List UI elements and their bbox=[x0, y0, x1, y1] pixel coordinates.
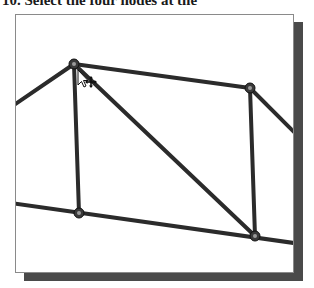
member-right-extension[interactable] bbox=[250, 88, 293, 139]
member-left-vertical[interactable] bbox=[74, 64, 79, 213]
member-left-extension[interactable] bbox=[16, 64, 74, 107]
node-bottom-left[interactable] bbox=[74, 208, 84, 218]
node-top-right[interactable] bbox=[245, 83, 255, 93]
truss-model-canvas[interactable] bbox=[16, 15, 293, 272]
member-diagonal[interactable] bbox=[74, 64, 255, 236]
node-top-left[interactable] bbox=[69, 59, 79, 69]
node-bottom-right[interactable] bbox=[250, 231, 260, 241]
member-top-chord[interactable] bbox=[74, 64, 250, 88]
member-right-vertical[interactable] bbox=[250, 88, 255, 236]
instruction-caption-clip: 10. Select the four nodes at the bbox=[0, 0, 314, 8]
instruction-caption: 10. Select the four nodes at the bbox=[2, 0, 197, 8]
graphics-viewport[interactable] bbox=[15, 14, 294, 273]
